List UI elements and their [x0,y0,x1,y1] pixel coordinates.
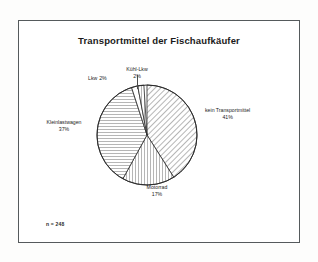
pie-label-kein-transportmittel-name: kein Transportmittel [205,107,250,113]
pie-chart-graphic [93,81,201,189]
pie-label-motorrad-percent: 17% [127,191,187,198]
pie-label-kein-transportmittel: kein Transportmittel 41% [205,107,250,121]
pie-label-motorrad-name: Motorrad [147,184,168,190]
sample-size-footnote: n = 248 [46,221,65,227]
pie-chart-area: kein Transportmittel 41% Motorrad 17% Kl… [19,21,301,244]
pie-label-kleinlastwagen: Kleinlastwagen 37% [33,119,95,133]
leader-line-kuehl-lkw [137,75,138,89]
pie-label-motorrad: Motorrad 17% [127,184,187,198]
pie-label-lkw-name: Lkw [88,75,97,81]
pie-label-kein-transportmittel-percent: 41% [205,114,250,121]
pie-label-lkw-percent: 2% [99,75,107,81]
pie-label-kleinlastwagen-percent: 37% [33,126,95,133]
pie-label-lkw: Lkw2% [88,75,107,82]
pie-label-kleinlastwagen-name: Kleinlastwagen [47,119,82,125]
chart-page: Transportmittel der Fischaufkäufer [0,0,318,262]
pie-label-kuehl-lkw-name: Kühl-Lkw [126,66,147,72]
chart-frame: Transportmittel der Fischaufkäufer [18,20,300,243]
